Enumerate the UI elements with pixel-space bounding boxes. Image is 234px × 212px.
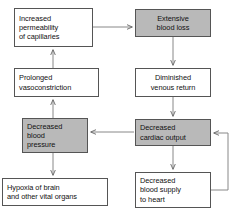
node-prolonged-vasoconstriction: Prolonged vasoconstriction: [14, 68, 99, 97]
flowchart-diagram: Increased permeability of capillaries Ex…: [0, 0, 234, 212]
node-decreased-blood-pressure: Decreased blood pressure: [22, 118, 88, 153]
node-extensive-blood-loss: Extensive blood loss: [135, 9, 211, 37]
node-hypoxia-of-brain: Hypoxia of brain and other vital organs: [2, 178, 108, 206]
node-decreased-blood-supply-to-heart: Decreased blood supply to heart: [135, 172, 211, 208]
node-prolonged-vasoconstriction-label: Prolonged vasoconstriction: [15, 73, 98, 91]
node-decreased-blood-supply-to-heart-label: Decreased blood supply to heart: [136, 176, 210, 204]
connector-blood-supply-feedback-to-cardiac-output: [211, 133, 228, 190]
node-diminished-venous-return: Diminished venous return: [135, 68, 211, 97]
node-increased-permeability-label: Increased permeability of capillaries: [15, 14, 92, 42]
node-decreased-blood-pressure-label: Decreased blood pressure: [23, 122, 87, 150]
node-diminished-venous-return-label: Diminished venous return: [136, 73, 210, 91]
node-hypoxia-of-brain-label: Hypoxia of brain and other vital organs: [3, 183, 107, 201]
node-extensive-blood-loss-label: Extensive blood loss: [136, 14, 210, 32]
node-decreased-cardiac-output: Decreased cardiac output: [135, 119, 211, 146]
node-increased-permeability: Increased permeability of capillaries: [14, 8, 93, 47]
node-decreased-cardiac-output-label: Decreased cardiac output: [136, 123, 210, 141]
